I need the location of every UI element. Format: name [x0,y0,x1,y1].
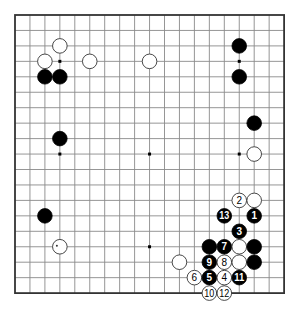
star-point [58,60,61,63]
white-stone-move-12: 12 [217,286,232,301]
star-point [238,60,241,63]
white-stone-move-2: 2 [232,193,247,208]
white-stone [232,239,247,254]
move-number-label: 11 [234,272,244,283]
white-stone [38,54,53,69]
black-stone [53,131,68,146]
star-point [148,153,151,156]
black-stone-move-11: 11 [232,270,247,285]
black-stone-circle [53,131,68,146]
white-stone [247,147,262,162]
white-stone [82,54,97,69]
black-stone-move-7: 7 [217,239,232,254]
move-number-label: 7 [222,241,228,252]
move-number-label: 13 [219,210,229,221]
white-stone [232,255,247,270]
white-stone-circle [82,54,97,69]
black-stone-move-13: 13 [217,209,232,224]
move-number-label: 5 [207,272,213,283]
black-stone-circle [247,116,262,131]
go-board[interactable]: 21313798654111012 [0,0,295,311]
move-number-label: 3 [236,226,242,237]
white-stone [247,193,262,208]
white-stone [53,239,68,254]
black-stone-circle [38,209,53,224]
black-stone-move-5: 5 [202,270,217,285]
star-point [238,153,241,156]
white-stone-circle [247,193,262,208]
white-stone-circle [142,54,157,69]
move-number-label: 12 [219,288,229,299]
white-stone-move-8: 8 [217,255,232,270]
white-stone-circle [172,255,187,270]
white-stone [142,54,157,69]
move-number-label: 9 [207,257,213,268]
black-stone [232,70,247,85]
white-stone [172,255,187,270]
black-stone-circle [232,70,247,85]
black-stone-circle [247,255,262,270]
white-stone-circle [38,54,53,69]
white-stone-circle [53,239,68,254]
black-stone-circle [38,70,53,85]
white-stone-circle [53,39,68,54]
black-stone [232,39,247,54]
white-stone-circle [232,239,247,254]
black-stone-circle [232,39,247,54]
black-stone-move-1: 1 [247,209,262,224]
black-stone-circle [202,239,217,254]
black-stone-circle [247,239,262,254]
move-number-label: 6 [192,272,198,283]
move-number-label: 2 [236,195,242,206]
black-stone-move-3: 3 [232,224,247,239]
black-stone [53,70,68,85]
black-stone [247,255,262,270]
black-stone [247,116,262,131]
black-stone [202,239,217,254]
stone-mark-dot [56,245,58,247]
star-point [148,245,151,248]
white-stone-move-10: 10 [202,286,217,301]
black-stone [38,70,53,85]
white-stone-move-4: 4 [217,270,232,285]
black-stone [247,239,262,254]
move-number-label: 4 [222,272,228,283]
move-number-label: 10 [204,288,214,299]
white-stone [53,39,68,54]
star-point [58,153,61,156]
white-stone-circle [232,255,247,270]
white-stone-move-6: 6 [187,270,202,285]
move-number-label: 1 [251,210,257,221]
black-stone-circle [53,70,68,85]
black-stone [38,209,53,224]
move-number-label: 8 [222,257,228,268]
black-stone-move-9: 9 [202,255,217,270]
white-stone-circle [247,147,262,162]
go-board-diagram[interactable]: 21313798654111012 [0,0,295,311]
